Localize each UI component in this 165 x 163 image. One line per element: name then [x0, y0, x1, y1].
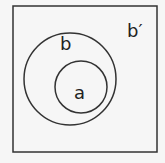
- venn-diagram: b b′ a: [0, 0, 165, 163]
- complement-b-label: b′: [127, 20, 143, 41]
- set-b-label: b: [60, 33, 71, 54]
- set-a-label: a: [74, 82, 85, 103]
